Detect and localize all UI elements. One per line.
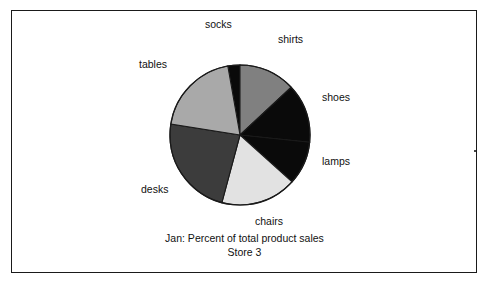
screenshot-root: socks shirts shoes lamps chairs desks ta… [0, 0, 489, 285]
scan-artifact-mark [474, 150, 476, 152]
pie-label-chairs: chairs [255, 215, 283, 227]
pie-slice-tables [171, 66, 240, 135]
pie-label-tables: tables [139, 58, 167, 70]
pie-label-desks: desks [141, 183, 168, 195]
pie-label-socks: socks [205, 18, 232, 30]
pie-label-lamps: lamps [322, 155, 350, 167]
caption-title: Jan: Percent of total product sales [0, 231, 489, 245]
pie-slice-group [170, 65, 310, 205]
pie-label-shoes: shoes [322, 91, 350, 103]
chart-caption: Jan: Percent of total product sales Stor… [0, 231, 489, 259]
pie-label-shirts: shirts [278, 33, 303, 45]
caption-subtitle: Store 3 [0, 245, 489, 259]
